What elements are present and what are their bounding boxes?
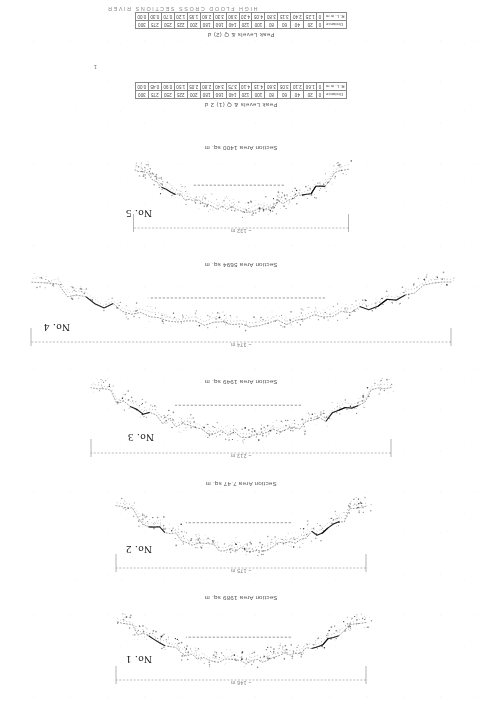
table-2-distance-cell: 300 (135, 21, 148, 29)
table-2-distance-cell: 120 (239, 21, 252, 29)
table-2-rl-cell: 0 (317, 13, 324, 21)
cross-section-profile-no-1 (0, 588, 482, 688)
cross-section-no-5: ~ 132 m (0, 144, 482, 236)
table-2-distance-cell: 40 (291, 21, 304, 29)
table-2-distance-cell: 250 (161, 21, 174, 29)
scanned-page: HIGH FLOOD CROSS SECTIONS RIVER ~ 146 m~… (0, 0, 482, 706)
table-1-rl-cell: 2.10 (291, 83, 304, 91)
cross-section-label-no-3: No. 3 (128, 432, 154, 444)
table-2-title: Peak Levels & Q (2) d (0, 32, 482, 38)
table-2-rl-cell: 1.95 (187, 13, 200, 21)
table-2-rl-cell: 3.15 (278, 13, 291, 21)
table-1-distance-cell: 120 (239, 91, 252, 99)
table-1-rl-cell: 3.05 (278, 83, 291, 91)
cross-section-span-label-no-4: ~ 374 m (0, 342, 482, 348)
stray-page-mark: 1 (94, 64, 97, 70)
table-2-distance-cell: 100 (252, 21, 265, 29)
table-1-rl-cell: 2.05 (187, 83, 200, 91)
table-2-distance-cell: 0 (317, 21, 324, 29)
table-1-distance-cell: 300 (135, 91, 148, 99)
cross-section-span-label-no-2: ~ 175 m (0, 568, 482, 574)
table-2-distance-cell: 275 (148, 21, 161, 29)
cross-section-area-no-2: Section Area 7.47 sq. m (0, 481, 482, 488)
table-2-rl-cell: 3.80 (265, 13, 278, 21)
table-1-distance-cell: 40 (291, 91, 304, 99)
table-2-distance-cell: 60 (278, 21, 291, 29)
table-2-distance-cell: 140 (226, 21, 239, 29)
cross-section-label-no-2: No. 2 (126, 544, 152, 556)
cross-section-label-no-1: No. 1 (126, 654, 152, 666)
table-2-distance-cell: 20 (304, 21, 317, 29)
table-1-rl-cell: 3.40 (213, 83, 226, 91)
table-1-rl-cell: 1.60 (304, 83, 317, 91)
cross-section-no-2: ~ 175 m (0, 476, 482, 576)
table-1-distance-cell: 180 (200, 91, 213, 99)
table-1-rl-cell: 2.80 (200, 83, 213, 91)
table-2-rl-cell: 3.90 (226, 13, 239, 21)
table-1-distance-cell: 160 (213, 91, 226, 99)
table-1-row-label-distance: Distance (323, 91, 346, 99)
table-1-rl-cell: 4.15 (252, 83, 265, 91)
table-2-rl-cell: 2.60 (200, 13, 213, 21)
table-2-distance-cell: 80 (265, 21, 278, 29)
table-2-distance-cell: 160 (213, 21, 226, 29)
table-2-rl-cell: 3.30 (213, 13, 226, 21)
table-2-rl-cell: 1.25 (304, 13, 317, 21)
table-1-distance-cell: 140 (226, 91, 239, 99)
table-2-distance-cell: 225 (174, 21, 187, 29)
table-2-distance-cell: 180 (200, 21, 213, 29)
table-2-rl-cell: 1.20 (174, 13, 187, 21)
cross-section-span-label-no-3: ~ 213 m (0, 453, 482, 459)
table-1-rl-cell: 1.50 (174, 83, 187, 91)
table-1-rl-cell: 4.10 (239, 83, 252, 91)
cross-section-profile-no-2 (0, 476, 482, 576)
table-1-row-label-rl: R. L. in m (323, 83, 346, 91)
table-2-rl-cell: 0.30 (148, 13, 161, 21)
cross-section-area-no-1: Section Area 1989 sq. m (0, 595, 482, 602)
table-1-rl-cell: 3.75 (226, 83, 239, 91)
table-2-row-label-distance: Distance (323, 21, 346, 29)
table-2-grid: Distance02040608010012014016018020022525… (135, 12, 347, 29)
table-1-distance-cell: 80 (265, 91, 278, 99)
table-1-grid: Distance02040608010012014016018020022525… (135, 82, 347, 99)
table-2-rl-cell: 0.70 (161, 13, 174, 21)
cross-section-profile-no-5 (0, 144, 482, 236)
table-1-rl-cell: 3.60 (265, 83, 278, 91)
cross-section-label-no-5: No. 5 (126, 208, 152, 220)
table-1: Peak Levels & Q (1) 2 dDistance020406080… (0, 82, 482, 108)
table-1-distance-cell: 20 (304, 91, 317, 99)
table-1-title: Peak Levels & Q (1) 2 d (0, 102, 482, 108)
cross-section-area-no-3: Section Area 1949 sq. m (0, 379, 482, 386)
table-2-row-label-rl: R. L. in m (323, 13, 346, 21)
drawing-sheet: HIGH FLOOD CROSS SECTIONS RIVER ~ 146 m~… (0, 0, 482, 706)
cross-section-label-no-4: No. 4 (44, 322, 70, 334)
table-1-distance-cell: 200 (187, 91, 200, 99)
cross-section-no-1: ~ 146 m (0, 588, 482, 688)
cross-section-area-no-5: Section Area 1400 sq. m (0, 145, 482, 152)
table-row: Distance02040608010012014016018020022525… (135, 91, 346, 99)
table-2-rl-cell: 2.40 (291, 13, 304, 21)
table-1-distance-cell: 100 (252, 91, 265, 99)
table-1-rl-cell: 0 (317, 83, 324, 91)
table-1-distance-cell: 60 (278, 91, 291, 99)
table-2-distance-cell: 200 (187, 21, 200, 29)
table-2: Peak Levels & Q (2) dDistance02040608010… (0, 12, 482, 38)
table-1-rl-cell: 0.90 (161, 83, 174, 91)
table-1-rl-cell: 0.45 (148, 83, 161, 91)
table-1-distance-cell: 0 (317, 91, 324, 99)
table-1-distance-cell: 225 (174, 91, 187, 99)
table-1-distance-cell: 250 (161, 91, 174, 99)
table-row: R. L. in m01.602.103.053.604.154.103.753… (135, 83, 346, 91)
table-2-rl-cell: 4.05 (252, 13, 265, 21)
cross-section-span-label-no-1: ~ 146 m (0, 680, 482, 686)
cross-section-area-no-4: Section Area 5694 sq. m (0, 262, 482, 269)
table-row: Distance02040608010012014016018020022525… (135, 21, 346, 29)
table-1-distance-cell: 275 (148, 91, 161, 99)
table-2-rl-cell: 0.00 (135, 13, 148, 21)
table-1-rl-cell: 0.00 (135, 83, 148, 91)
cross-section-span-label-no-5: ~ 132 m (0, 228, 482, 234)
table-row: R. L. in m01.252.403.153.804.054.203.903… (135, 13, 346, 21)
table-2-rl-cell: 4.20 (239, 13, 252, 21)
